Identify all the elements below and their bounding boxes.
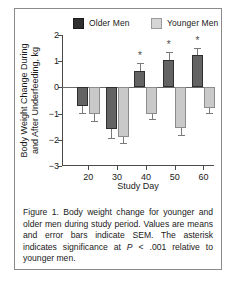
bar-older-day-40 [134, 71, 145, 87]
y-tick-label: −1 [49, 109, 59, 119]
bar-younger-day-30 [118, 87, 129, 137]
error-bar-older-day-20 [82, 106, 83, 113]
x-axis-line [62, 165, 214, 166]
x-tick-mark-60 [203, 166, 204, 170]
error-bar-cap [91, 121, 98, 122]
y-tick-label: −3 [49, 161, 59, 171]
y-axis-title-line1: Body Weight Change During [19, 44, 29, 158]
error-bar-cap [178, 135, 185, 136]
x-tick-mark-50 [175, 166, 176, 170]
figure-panel: Older Men Younger Men Body Weight Change… [14, 8, 222, 270]
y-tick-label: 2 [54, 30, 59, 40]
significance-asterisk-day-60: * [195, 37, 199, 45]
chart-legend: Older Men Younger Men [67, 16, 219, 30]
legend-entry-younger-men: Younger Men [151, 16, 218, 30]
error-bar-cap [206, 113, 213, 114]
error-bar-cap [79, 113, 86, 114]
chart-region: Older Men Younger Men Body Weight Change… [15, 9, 221, 195]
legend-label-older-men: Older Men [89, 18, 130, 28]
x-axis-title: Study Day [62, 181, 214, 191]
y-tick-label: 1 [54, 56, 59, 66]
bar-younger-day-40 [146, 87, 157, 113]
significance-asterisk-day-40: * [138, 52, 142, 60]
error-bar-cap [166, 52, 173, 53]
bar-older-day-60 [192, 55, 203, 87]
error-bar-older-day-30 [111, 129, 112, 137]
y-axis-line [62, 35, 63, 166]
y-axis-title: Body Weight Change During and After Unde… [17, 35, 43, 166]
legend-entry-older-men: Older Men [73, 16, 130, 30]
bar-younger-day-60 [204, 87, 215, 107]
y-axis-title-line2: and After Underfeeding, kg [30, 47, 40, 154]
legend-label-younger-men: Younger Men [167, 18, 218, 28]
legend-swatch-younger-men [151, 18, 162, 29]
plot-area: 210−1−2−3 2030405060 *** [62, 35, 214, 166]
y-tick-label: −2 [49, 135, 59, 145]
caption-lead: Figure 1. [23, 207, 59, 217]
error-bar-younger-day-20 [94, 114, 95, 121]
bar-younger-day-50 [175, 87, 186, 128]
bar-older-day-50 [163, 60, 174, 88]
significance-asterisk-day-50: * [167, 41, 171, 49]
x-tick-mark-30 [117, 166, 118, 170]
bar-older-day-30 [106, 87, 117, 129]
x-tick-mark-20 [88, 166, 89, 170]
legend-swatch-older-men [73, 18, 84, 29]
x-tick-mark-40 [146, 166, 147, 170]
error-bar-older-day-50 [169, 52, 170, 60]
error-bar-older-day-60 [197, 48, 198, 56]
error-bar-cap [149, 119, 156, 120]
error-bar-cap [137, 63, 144, 64]
y-tick-label: 0 [54, 82, 59, 92]
bar-younger-day-20 [89, 87, 100, 114]
error-bar-cap [120, 143, 127, 144]
error-bar-cap [108, 138, 115, 139]
error-bar-cap [194, 48, 201, 49]
bar-older-day-20 [77, 87, 88, 105]
error-bar-older-day-40 [140, 63, 141, 71]
figure-caption: Figure 1. Body weight change for younger… [23, 207, 213, 265]
